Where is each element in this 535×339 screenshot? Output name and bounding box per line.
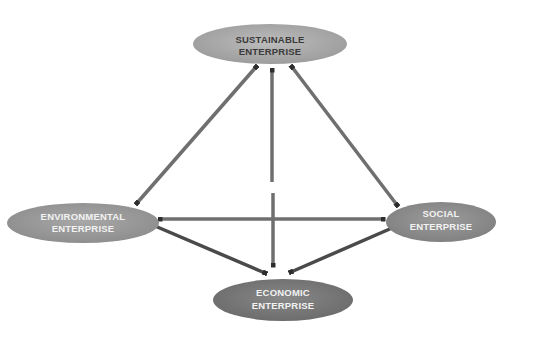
node-label-line2: ENTERPRISE: [239, 46, 302, 57]
node-label-line2: ENTERPRISE: [410, 221, 473, 232]
node-label-line1: ECONOMIC: [256, 287, 310, 298]
node-label-line1: ENVIRONMENTAL: [41, 211, 126, 222]
node-label-line2: ENTERPRISE: [252, 300, 315, 311]
node-economic-enterprise: ECONOMIC ENTERPRISE: [213, 279, 353, 321]
arrow-environmental-sustainable: [137, 67, 256, 203]
arrow-social-economic: [291, 228, 392, 272]
arrow-environmental-economic: [155, 226, 265, 273]
edges: [137, 67, 397, 273]
node-label-line2: ENTERPRISE: [52, 223, 115, 234]
node-sustainable-enterprise: SUSTAINABLE ENTERPRISE: [193, 24, 347, 64]
arrow-social-sustainable: [292, 67, 397, 205]
node-social-enterprise: SOCIAL ENTERPRISE: [386, 202, 496, 242]
enterprise-diagram: SUSTAINABLE ENTERPRISE ENVIRONMENTAL ENT…: [0, 0, 535, 339]
node-label-line1: SUSTAINABLE: [235, 34, 304, 45]
node-label-line1: SOCIAL: [422, 208, 459, 219]
node-environmental-enterprise: ENVIRONMENTAL ENTERPRISE: [7, 203, 159, 243]
